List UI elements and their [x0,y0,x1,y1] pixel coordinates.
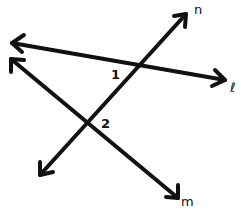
line-m [11,59,178,198]
line-n [40,14,186,175]
label-line-m: m [181,195,194,208]
label-line-l: ℓ [230,81,235,94]
label-angle-2: 2 [101,117,110,130]
diagram-canvas: n ℓ m 1 2 [0,0,241,211]
label-line-n: n [194,3,202,16]
lines-svg [0,0,241,211]
label-angle-1: 1 [111,68,120,81]
